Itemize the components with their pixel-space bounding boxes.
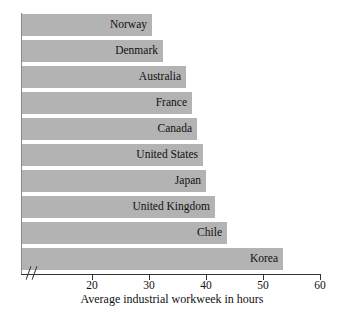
bar-label: Japan bbox=[175, 175, 201, 187]
bar-label: United Kingdom bbox=[132, 201, 210, 213]
bar-label: France bbox=[156, 97, 187, 109]
bar-label: United States bbox=[136, 149, 198, 161]
y-axis-line bbox=[21, 13, 22, 275]
bar-label: Korea bbox=[250, 253, 278, 265]
x-tick-label: 60 bbox=[314, 280, 326, 292]
plot-area: Norway Denmark Australia France Canada U… bbox=[0, 0, 344, 275]
x-axis-label: Average industrial workweek in hours bbox=[0, 293, 344, 305]
bar bbox=[21, 248, 283, 270]
x-tick-label: 20 bbox=[86, 280, 98, 292]
bar-label: Denmark bbox=[115, 45, 158, 57]
x-tick-label: 30 bbox=[143, 280, 155, 292]
x-tick-label: 40 bbox=[200, 280, 212, 292]
bar-label: Australia bbox=[139, 71, 181, 83]
x-axis-line bbox=[21, 274, 321, 275]
x-tick-label: 50 bbox=[257, 280, 269, 292]
bar-label: Norway bbox=[110, 19, 147, 31]
axis-break-icon bbox=[25, 266, 41, 280]
bar-label: Chile bbox=[197, 227, 222, 239]
bar-chart: Norway Denmark Australia France Canada U… bbox=[0, 0, 344, 313]
bar-label: Canada bbox=[158, 123, 192, 135]
